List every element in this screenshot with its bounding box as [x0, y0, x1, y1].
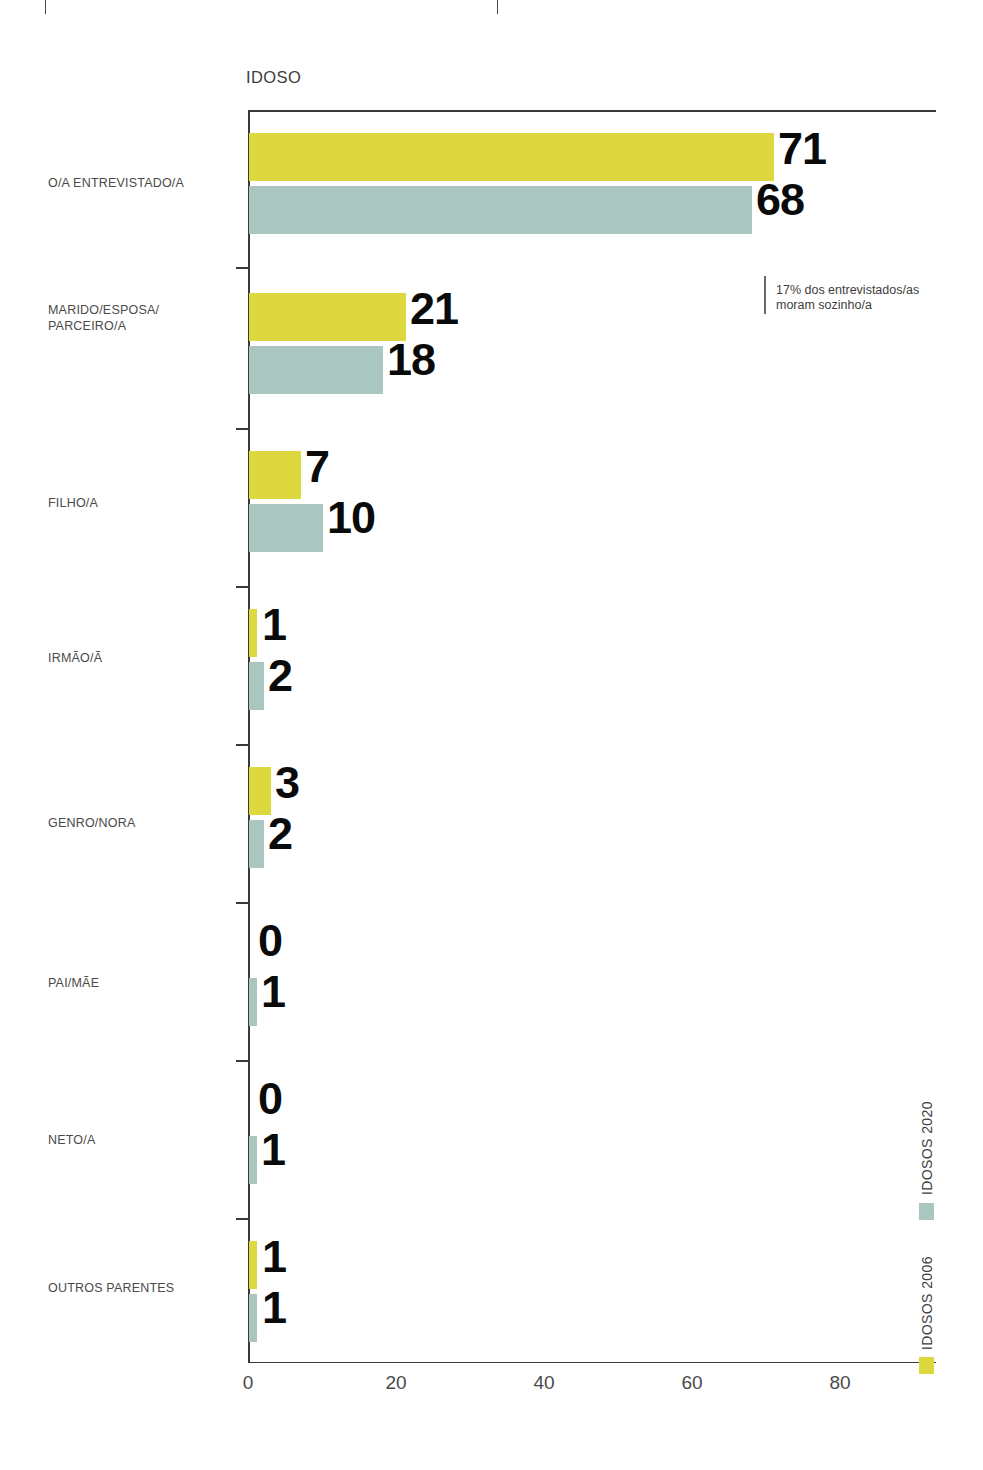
- y-tick-separator: [236, 744, 249, 746]
- category-label-line1: OUTROS PARENTES: [48, 1280, 233, 1296]
- bar-value-irmao-2020: 2: [268, 653, 292, 698]
- bar-value-marido-2006: 21: [410, 286, 458, 331]
- annotation-leader-line: [764, 276, 766, 314]
- chart-title: IDOSO: [246, 68, 301, 87]
- category-label-column: O/A ENTREVISTADO/A MARIDO/ESPOSA/ PARCEI…: [48, 110, 233, 1363]
- x-tick-label-20: 20: [385, 1372, 406, 1394]
- category-label-neto: NETO/A: [48, 1132, 233, 1148]
- legend-label-idosos-2006: IDOSOS 2006: [919, 1230, 935, 1350]
- category-label-genro: GENRO/NORA: [48, 815, 233, 831]
- bar-value-outros-2020: 1: [262, 1285, 286, 1330]
- category-label-entrevistado: O/A ENTREVISTADO/A: [48, 175, 233, 191]
- bar-entrevistado-2006: [249, 133, 774, 181]
- bar-irmao-2020: [249, 662, 264, 710]
- category-label-marido: MARIDO/ESPOSA/ PARCEIRO/A: [48, 302, 233, 334]
- bar-value-neto-2006: 0: [258, 1076, 282, 1121]
- category-label-line1: PAI/MÃE: [48, 975, 233, 991]
- category-label-line1: O/A ENTREVISTADO/A: [48, 175, 233, 191]
- bar-marido-2006: [249, 293, 406, 341]
- category-label-line1: MARIDO/ESPOSA/: [48, 302, 233, 318]
- x-tick-label-60: 60: [681, 1372, 702, 1394]
- y-tick-separator: [236, 902, 249, 904]
- crop-mark-center: [497, 0, 498, 14]
- bar-outros-2006: [249, 1241, 257, 1289]
- bar-value-pai-2020: 1: [261, 969, 285, 1014]
- x-tick-label-0: 0: [243, 1372, 254, 1394]
- bar-irmao-2006: [249, 609, 257, 657]
- y-tick-separator: [236, 586, 249, 588]
- crop-mark-left: [45, 0, 46, 14]
- bar-neto-2020: [249, 1136, 257, 1184]
- chart-legend: IDOSOS 2020 IDOSOS 2006: [905, 1075, 945, 1355]
- bar-filho-2006: [249, 451, 301, 499]
- bar-genro-2020: [249, 820, 264, 868]
- category-label-line2: PARCEIRO/A: [48, 318, 233, 334]
- y-tick-separator: [236, 267, 249, 269]
- annotation-text-line2: moram sozinho/a: [776, 298, 936, 313]
- bar-filho-2020: [249, 504, 323, 552]
- x-tick-label-80: 80: [829, 1372, 850, 1394]
- category-label-irmao: IRMÃO/Ã: [48, 650, 233, 666]
- category-label-line1: FILHO/A: [48, 495, 233, 511]
- annotation-text-line1: 17% dos entrevistados/as: [776, 283, 936, 298]
- bar-value-entrevistado-2020: 68: [756, 177, 804, 222]
- axis-top-line: [248, 110, 936, 112]
- y-tick-separator: [236, 1218, 249, 1220]
- bar-outros-2020: [249, 1294, 257, 1342]
- legend-label-idosos-2020: IDOSOS 2020: [919, 1075, 935, 1195]
- axis-bottom-line: [248, 1362, 936, 1364]
- bar-value-filho-2006: 7: [305, 444, 329, 489]
- bar-value-outros-2006: 1: [262, 1234, 286, 1279]
- bar-value-genro-2020: 2: [268, 811, 292, 856]
- bar-value-marido-2020: 18: [387, 337, 435, 382]
- category-label-line1: IRMÃO/Ã: [48, 650, 233, 666]
- bar-entrevistado-2020: [249, 186, 752, 234]
- y-tick-separator: [236, 428, 249, 430]
- bar-value-genro-2006: 3: [275, 760, 299, 805]
- bar-value-irmao-2006: 1: [262, 602, 286, 647]
- category-label-line1: GENRO/NORA: [48, 815, 233, 831]
- category-label-line1: NETO/A: [48, 1132, 233, 1148]
- bar-value-filho-2020: 10: [327, 495, 375, 540]
- annotation-text: 17% dos entrevistados/as moram sozinho/a: [776, 283, 936, 313]
- x-axis-labels: 0 20 40 60 80: [248, 1372, 948, 1412]
- bar-value-entrevistado-2006: 71: [778, 126, 826, 171]
- bar-value-pai-2006: 0: [258, 918, 282, 963]
- legend-swatch-idosos-2020: [919, 1203, 934, 1220]
- bar-marido-2020: [249, 346, 383, 394]
- bar-value-neto-2020: 1: [261, 1127, 285, 1172]
- category-label-pai: PAI/MÃE: [48, 975, 233, 991]
- bar-pai-2020: [249, 978, 257, 1026]
- x-tick-label-40: 40: [533, 1372, 554, 1394]
- category-label-filho: FILHO/A: [48, 495, 233, 511]
- category-label-outros: OUTROS PARENTES: [48, 1280, 233, 1296]
- y-tick-separator: [236, 1060, 249, 1062]
